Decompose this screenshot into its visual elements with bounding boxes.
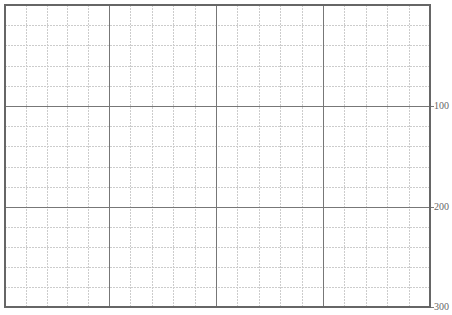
chart-grid xyxy=(0,0,452,315)
y-tick-label-200: 200 xyxy=(434,202,449,212)
y-tick-label-100: 100 xyxy=(434,101,449,111)
y-tick-label-300: 300 xyxy=(434,302,449,312)
